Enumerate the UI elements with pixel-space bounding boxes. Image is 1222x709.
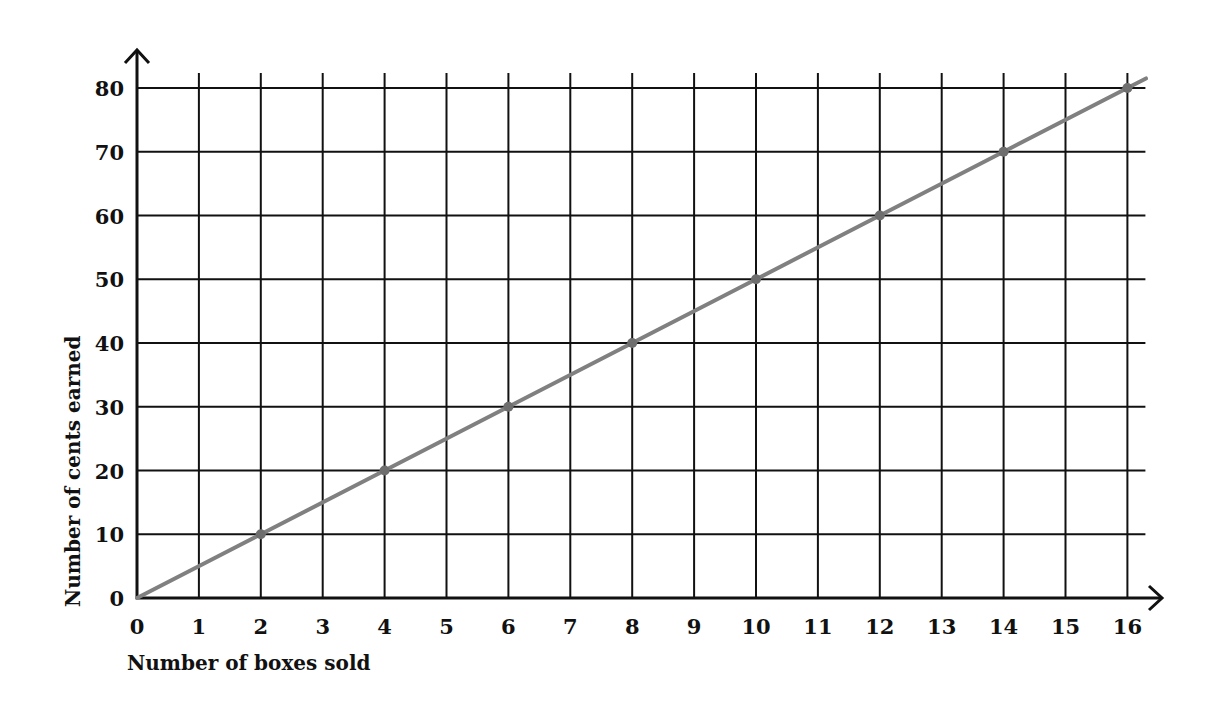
x-tick-label: 16 bbox=[1113, 614, 1142, 639]
data-point bbox=[380, 466, 390, 476]
data-point bbox=[627, 338, 637, 348]
data-point bbox=[751, 274, 761, 284]
data-point bbox=[1122, 83, 1132, 93]
x-tick-label: 4 bbox=[377, 614, 392, 639]
x-tick-label: 15 bbox=[1051, 614, 1080, 639]
y-tick-label: 60 bbox=[95, 204, 124, 229]
line-chart: 012345678910111213141516 010203040506070… bbox=[0, 0, 1222, 709]
x-tick-label: 2 bbox=[253, 614, 268, 639]
x-tick-label: 8 bbox=[625, 614, 640, 639]
y-tick-label: 40 bbox=[95, 331, 124, 356]
x-tick-label: 14 bbox=[989, 614, 1018, 639]
y-tick-label: 70 bbox=[95, 140, 124, 165]
y-tick-label: 30 bbox=[95, 395, 124, 420]
x-tick-label: 5 bbox=[439, 614, 454, 639]
x-tick-label: 7 bbox=[563, 614, 578, 639]
y-tick-label: 20 bbox=[95, 459, 124, 484]
data-point bbox=[999, 147, 1009, 157]
data-point bbox=[875, 211, 885, 221]
x-tick-label: 1 bbox=[192, 614, 207, 639]
data-point bbox=[256, 529, 266, 539]
y-tick-label: 0 bbox=[109, 586, 124, 611]
x-tick-label: 13 bbox=[927, 614, 956, 639]
y-tick-label: 80 bbox=[95, 76, 124, 101]
x-tick-label: 9 bbox=[687, 614, 702, 639]
x-tick-label: 6 bbox=[501, 614, 516, 639]
x-tick-label: 3 bbox=[315, 614, 330, 639]
data-point bbox=[503, 402, 513, 412]
x-tick-label: 10 bbox=[741, 614, 770, 639]
x-tick-label: 0 bbox=[130, 614, 145, 639]
x-axis-label: Number of boxes sold bbox=[127, 651, 370, 675]
data-line bbox=[137, 78, 1146, 598]
x-axis-tick-labels: 012345678910111213141516 bbox=[130, 614, 1142, 639]
y-tick-label: 10 bbox=[95, 522, 124, 547]
y-axis-tick-labels: 01020304050607080 bbox=[95, 76, 124, 611]
x-tick-label: 11 bbox=[803, 614, 832, 639]
x-tick-label: 12 bbox=[865, 614, 894, 639]
y-tick-label: 50 bbox=[95, 267, 124, 292]
y-axis-label: Number of cents earned bbox=[61, 336, 85, 607]
data-series bbox=[137, 78, 1146, 598]
